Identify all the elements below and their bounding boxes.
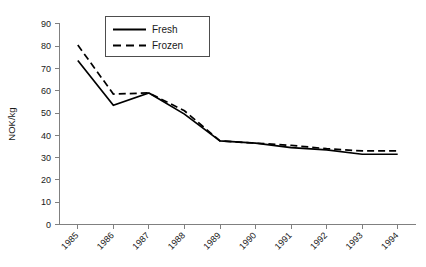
legend: Fresh Frozen xyxy=(106,17,210,57)
series-line-fresh xyxy=(78,61,398,155)
x-tick-label: 1994 xyxy=(379,230,400,251)
y-axis-title: NOK/kg xyxy=(6,107,17,140)
x-tick-label: 1989 xyxy=(201,230,222,251)
x-tick-label: 1988 xyxy=(166,230,187,251)
x-axis-labels: 1985 1986 1987 1988 1989 1990 1991 1992 … xyxy=(59,230,400,251)
y-tick-label: 20 xyxy=(41,175,51,185)
legend-label-fresh: Fresh xyxy=(152,24,178,35)
x-tick-label: 1986 xyxy=(95,230,116,251)
y-tick-label: 50 xyxy=(41,108,51,118)
y-tick-label: 0 xyxy=(46,220,51,230)
x-axis-ticks xyxy=(78,225,398,230)
x-tick-label: 1991 xyxy=(272,230,293,251)
y-axis-ticks xyxy=(55,24,60,225)
x-tick-label: 1992 xyxy=(308,230,329,251)
y-axis-labels: 0 10 20 30 40 50 60 70 80 90 xyxy=(41,19,51,230)
y-tick-label: 80 xyxy=(41,41,51,51)
line-chart: 0 10 20 30 40 50 60 70 80 90 NOK/kg xyxy=(0,0,426,267)
legend-label-frozen: Frozen xyxy=(152,40,183,51)
x-tick-label: 1987 xyxy=(130,230,151,251)
y-tick-label: 60 xyxy=(41,86,51,96)
x-tick-label: 1990 xyxy=(237,230,258,251)
x-tick-label: 1993 xyxy=(344,230,365,251)
y-tick-label: 90 xyxy=(41,19,51,29)
y-tick-label: 70 xyxy=(41,64,51,74)
x-tick-label: 1985 xyxy=(59,230,80,251)
series-line-frozen xyxy=(78,45,398,151)
y-tick-label: 30 xyxy=(41,153,51,163)
y-tick-label: 40 xyxy=(41,131,51,141)
chart-canvas: 0 10 20 30 40 50 60 70 80 90 NOK/kg xyxy=(0,0,426,267)
y-tick-label: 10 xyxy=(41,197,51,207)
